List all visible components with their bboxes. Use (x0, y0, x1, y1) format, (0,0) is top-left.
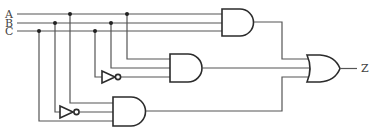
not-gate-2 (60, 106, 73, 118)
output-label-z: Z (361, 62, 369, 75)
and-gate-3 (113, 97, 146, 126)
junction-dot (53, 21, 57, 25)
not-gate-1 (102, 71, 115, 83)
junction-dot (68, 12, 72, 16)
wire-b-to-not2 (55, 23, 60, 112)
junction-dot (93, 29, 97, 33)
wire-b-to-and2 (111, 23, 170, 68)
wire-and1-to-or (254, 22, 310, 59)
wire-a-to-and2 (127, 14, 170, 59)
junction-dot (109, 21, 113, 25)
and-gate-2 (170, 54, 202, 82)
or-gate (307, 55, 340, 82)
wire-c-to-not1 (95, 31, 102, 77)
junction-dot (37, 29, 41, 33)
wire-a-to-and3 (70, 14, 113, 103)
and-gate-1 (222, 9, 254, 36)
logic-circuit-diagram: A B C Z (0, 0, 371, 134)
junction-dot (125, 12, 129, 16)
input-label-c: C (5, 25, 13, 38)
not-gate-1-bubble (115, 74, 120, 79)
not-gate-2-bubble (74, 109, 79, 114)
